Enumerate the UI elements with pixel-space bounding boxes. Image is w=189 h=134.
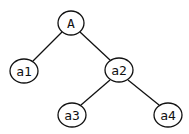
node-a1: a1 [10,59,38,83]
node-label-a1: a1 [16,64,32,79]
node-a3: a3 [58,103,86,127]
edges [33,32,159,105]
node-A: A [58,11,84,35]
node-a4: a4 [154,103,182,127]
node-a2: a2 [105,58,133,82]
edge-A-a2 [80,32,110,60]
node-label-a2: a2 [111,63,127,78]
edge-A-a1 [33,32,62,61]
edge-a2-a4 [128,80,159,105]
node-label-A: A [67,16,75,31]
node-label-a3: a3 [64,108,80,123]
node-label-a4: a4 [160,108,176,123]
edge-a2-a3 [81,80,110,105]
tree-diagram: A a1 a2 a3 a4 [0,0,189,134]
